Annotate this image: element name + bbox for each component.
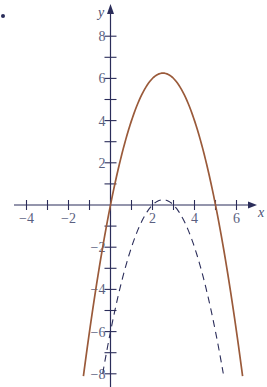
y-tick-label: 4 (99, 114, 106, 129)
y-tick-label: 2 (99, 156, 106, 171)
y-tick-label: 8 (99, 29, 106, 44)
y-axis-arrow-icon (107, 4, 114, 14)
dashed-parabola (103, 200, 224, 374)
y-tick-label: 6 (99, 71, 106, 86)
x-tick-label: −4 (19, 211, 34, 226)
chart-canvas: −4−22468642−2−4−6−8 x y (0, 0, 267, 387)
curves (83, 73, 242, 376)
y-tick-label: −4 (91, 282, 106, 297)
x-tick-label: 4 (191, 211, 198, 226)
x-axis-arrow-icon (248, 202, 257, 209)
x-tick-label: 6 (233, 211, 240, 226)
y-axis-label: y (96, 5, 105, 20)
y-tick-label: −6 (91, 325, 106, 340)
solid-parabola (83, 73, 242, 376)
x-tick-label: −2 (61, 211, 76, 226)
x-axis-label: x (257, 205, 265, 220)
axes (14, 4, 257, 387)
x-tick-label: 2 (149, 211, 156, 226)
bullet-dot (1, 14, 5, 18)
